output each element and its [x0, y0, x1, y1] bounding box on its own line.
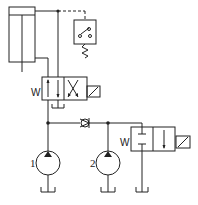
pump-2: 2	[90, 151, 120, 192]
pilot-line	[35, 9, 85, 20]
valve-top: W	[31, 77, 100, 108]
pump-1-label: 1	[30, 157, 36, 169]
hydraulic-diagram: W W	[0, 0, 198, 205]
valve-right: W	[120, 127, 190, 192]
check-valve-line	[46, 118, 142, 128]
pressure-switch	[74, 20, 96, 58]
spring-label-top: W	[31, 87, 41, 98]
pump-1: 1	[30, 151, 60, 192]
spring-label-right: W	[120, 137, 130, 148]
pump-2-label: 2	[90, 157, 96, 169]
cylinder	[9, 7, 35, 72]
return-line	[35, 58, 48, 77]
